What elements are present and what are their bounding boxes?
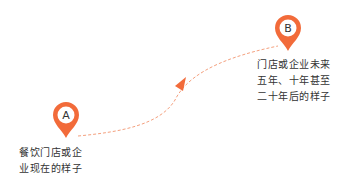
pin-a-icon: A [53,102,79,138]
direction-arrow-icon [175,77,186,91]
svg-text:B: B [284,22,292,35]
pin-b-icon: B [275,15,301,51]
point-b-line-1: 门店或企业未来 [257,57,343,73]
point-a-label: 餐饮门店或企 业现在的样子 [19,145,119,177]
dashed-path [78,46,278,136]
point-b-line-2: 五年、十年甚至 [257,73,343,89]
point-a-line-1: 餐饮门店或企 [19,145,119,161]
point-a-line-2: 业现在的样子 [19,161,119,177]
point-b-label: 门店或企业未来 五年、十年甚至 二十年后的样子 [257,57,343,105]
point-b-line-3: 二十年后的样子 [257,89,343,105]
svg-text:A: A [62,109,70,122]
